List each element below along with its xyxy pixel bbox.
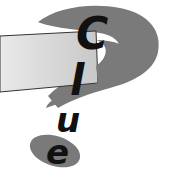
logo-letter-e: e bbox=[46, 135, 69, 169]
logo-letter-l: l bbox=[70, 60, 84, 102]
clue-logo: C l u e bbox=[0, 0, 171, 179]
logo-letter-c: C bbox=[76, 12, 108, 56]
